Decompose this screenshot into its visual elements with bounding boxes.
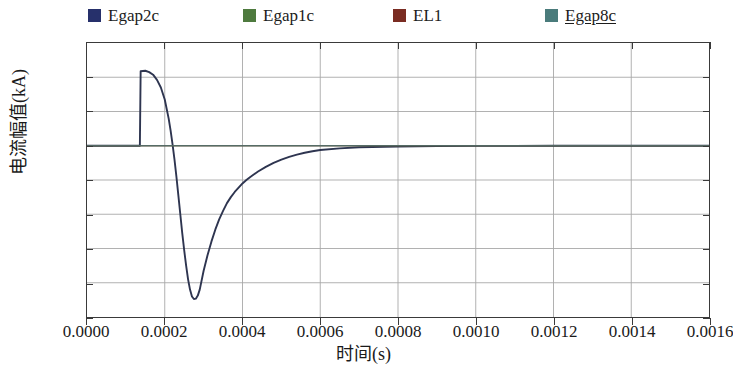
y-tick-mark-5: [86, 215, 93, 216]
y-tick-mark-3: [86, 146, 93, 147]
legend-item-3[interactable]: Egap8c: [545, 2, 616, 28]
legend-label-egap2c: Egap2c: [108, 6, 159, 25]
legend-label-el1: EL1: [413, 6, 442, 25]
y-tick-mark-1: [86, 77, 93, 78]
y-tick-mark-4: [86, 180, 93, 181]
y-tick-mark-right-3: [703, 146, 710, 147]
x-tick-mark-top-4: [398, 42, 399, 49]
legend-swatch-egap1c: [243, 9, 256, 22]
x-axis-title: 时间(s): [0, 344, 727, 365]
y-tick-mark-7: [86, 284, 93, 285]
x-tick-mark-top-8: [710, 42, 711, 49]
y-tick-mark-right-7: [703, 284, 710, 285]
y-tick-mark-2: [86, 111, 93, 112]
x-tick-mark-top-5: [476, 42, 477, 49]
x-tick-label-8: 0.0016: [687, 322, 733, 341]
x-tick-label-2: 0.0004: [219, 322, 266, 341]
series-curves: [87, 43, 709, 317]
x-tick-mark-top-7: [632, 42, 633, 49]
x-tick-label-7: 0.0014: [609, 322, 656, 341]
legend-label-egap8c: Egap8c: [565, 6, 616, 25]
x-tick-label-6: 0.0012: [531, 322, 578, 341]
legend-label-egap1c: Egap1c: [263, 6, 314, 25]
legend-swatch-egap8c: [545, 9, 558, 22]
y-tick-mark-right-4: [703, 180, 710, 181]
legend-swatch-el1: [393, 9, 406, 22]
x-tick-mark-top-3: [320, 42, 321, 49]
y-tick-mark-right-1: [703, 77, 710, 78]
y-axis-title: 电流幅值(kA): [9, 42, 29, 202]
y-tick-mark-right-2: [703, 111, 710, 112]
y-tick-mark-right-6: [703, 249, 710, 250]
legend-swatch-egap2c: [88, 9, 101, 22]
plot-area: [86, 42, 710, 318]
y-tick-mark-8: [86, 318, 93, 319]
legend-item-2[interactable]: EL1: [393, 2, 442, 28]
y-tick-mark-0: [86, 42, 93, 43]
x-tick-mark-top-2: [242, 42, 243, 49]
x-tick-label-5: 0.0010: [453, 322, 500, 341]
x-tick-mark-top-1: [164, 42, 165, 49]
y-tick-mark-6: [86, 249, 93, 250]
y-tick-mark-right-5: [703, 215, 710, 216]
x-tick-label-0: 0.0000: [63, 322, 110, 341]
x-tick-mark-top-6: [554, 42, 555, 49]
x-tick-label-3: 0.0006: [297, 322, 344, 341]
x-tick-label-4: 0.0008: [375, 322, 422, 341]
y-tick-mark-right-0: [703, 42, 710, 43]
y-tick-mark-right-8: [703, 318, 710, 319]
legend-item-1[interactable]: Egap1c: [243, 2, 314, 28]
chart-legend: Egap2c Egap1c EL1 Egap8c: [0, 2, 727, 30]
x-tick-mark-top-0: [86, 42, 87, 49]
x-tick-label-1: 0.0002: [141, 322, 188, 341]
legend-item-0[interactable]: Egap2c: [88, 2, 159, 28]
